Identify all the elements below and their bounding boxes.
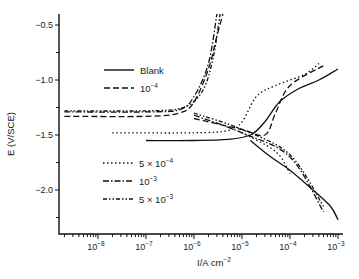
y-tick-label: −2.0: [35, 185, 53, 195]
x-tick-label: 10−4: [279, 240, 297, 252]
x-axis-label: I/A cm−2: [197, 256, 231, 268]
x-tick-label: 10−6: [183, 240, 201, 252]
curve-cathodic-4: [194, 113, 324, 207]
legend-label-2: 5 × 10−4: [139, 157, 173, 169]
legend-label-3: 10−3: [139, 175, 157, 187]
curves: [64, 14, 338, 220]
legend: Blank10−45 × 10−410−35 × 10−3: [103, 65, 173, 205]
y-tick-label: −0.5: [35, 20, 53, 30]
legend-label-4: 5 × 10−3: [139, 193, 173, 205]
y-axis-label: E (V/SCE): [5, 112, 16, 156]
legend-label-0: Blank: [140, 65, 164, 76]
x-tick-label: 10−8: [87, 240, 105, 252]
curve-cathodic-3: [194, 115, 324, 212]
x-tick-label: 10−5: [231, 240, 249, 252]
curve-cathodic-0: [251, 141, 339, 220]
x-axis-label-exp: −2: [223, 256, 231, 263]
curve-cathodic_far-1: [194, 66, 324, 136]
y-tick-label: −1.0: [35, 75, 53, 85]
axis-lines: [59, 14, 343, 234]
x-tick-label: 10−7: [135, 240, 153, 252]
legend-label-1: 10−4: [140, 82, 158, 94]
y-tick-label: −1.5: [35, 130, 53, 140]
curve-anodic-3: [64, 14, 217, 112]
polarization-chart: −0.5−1.0−1.5−2.010−810−710−610−510−410−3…: [0, 0, 359, 279]
x-tick-label: 10−3: [327, 240, 345, 252]
x-axis-label-main: I/A cm: [197, 257, 223, 268]
